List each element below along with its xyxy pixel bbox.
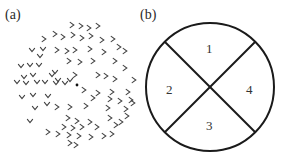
chevron-right-icon [46,129,50,134]
chevron-right-icon [119,119,123,124]
chevron-right-icon [113,76,117,81]
quadrant-label-1: 1 [206,42,213,55]
chevron-right-icon [71,125,75,130]
chevron-down-icon [53,81,58,84]
chevron-right-icon [96,90,100,95]
chevron-right-icon [95,124,99,129]
chevron-right-icon [117,44,121,49]
chevron-right-icon [82,87,86,92]
quadrant-label-4: 4 [246,83,253,96]
chevron-down-icon [55,78,60,81]
chevron-right-icon [75,118,79,123]
chevron-right-icon [84,103,88,108]
chevron-right-icon [89,33,93,38]
chevron-down-icon [30,73,35,76]
chevron-down-icon [30,93,35,96]
chevron-right-icon [55,47,59,52]
chevron-right-icon [61,34,65,39]
chevron-right-icon [78,59,82,64]
chevron-right-icon [102,49,106,54]
chevron-right-icon [55,104,59,109]
chevron-right-icon [68,140,72,145]
chevron-right-icon [77,133,81,138]
chevron-right-icon [87,25,91,30]
chevron-right-icon [104,73,108,78]
chevron-right-icon [79,23,83,28]
chevron-right-icon [65,48,69,53]
chevron-right-icon [96,72,100,77]
chevron-right-icon [56,131,60,136]
quadrant-label-2: 2 [166,83,173,96]
chevron-right-icon [91,58,95,63]
chevron-right-icon [110,89,114,94]
chevron-down-icon [37,54,42,57]
chevron-right-icon [114,122,118,127]
chevron-right-icon [91,95,95,100]
chevron-right-icon [110,131,114,136]
chevron-right-icon [73,47,77,52]
chevron-right-icon [71,32,75,37]
chevron-right-icon [74,142,78,147]
chevron-right-icon [131,100,135,105]
chevron-right-icon [68,104,72,109]
chevron-right-icon [126,89,130,94]
chevron-right-icon [80,124,84,129]
chevron-down-icon [34,80,39,83]
chevron-right-icon [124,106,128,111]
chevron-right-icon [108,115,112,120]
chevron-right-icon [111,36,115,41]
chevron-right-icon [96,23,100,28]
chevron-right-icon [106,105,110,110]
chevron-right-icon [102,133,106,138]
chevron-right-icon [125,113,129,118]
chevron-right-icon [62,124,66,129]
chevron-right-icon [67,132,71,137]
figure-canvas [0,0,286,158]
chevron-right-icon [67,58,71,63]
chevron-right-icon [89,134,93,139]
quadrant-label-3: 3 [206,119,213,132]
chevron-down-icon [23,81,28,84]
chevron-right-icon [70,22,74,27]
chevron-down-icon [45,94,50,97]
chevron-down-icon [49,73,54,76]
chevron-down-icon [27,119,32,122]
chevron-right-icon [88,46,92,51]
chevron-right-icon [66,115,70,120]
chevron-down-icon [27,63,32,66]
chevron-right-icon [100,37,104,42]
chevron-down-icon [29,48,34,51]
chevron-right-icon [123,48,127,53]
chevron-right-icon [80,35,84,40]
chevron-right-icon [108,96,112,101]
chevron-down-icon [44,102,49,105]
chevron-field [14,22,135,147]
chevron-right-icon [42,36,46,41]
chevron-down-icon [14,80,19,83]
chevron-right-icon [53,31,57,36]
chevron-right-icon [118,98,122,103]
chevron-right-icon [132,77,136,82]
center-dot [76,84,79,87]
chevron-right-icon [88,119,92,124]
chevron-down-icon [62,81,67,84]
chevron-right-icon [73,72,77,77]
chevron-down-icon [40,47,45,50]
chevron-down-icon [36,63,41,66]
chevron-down-icon [32,106,37,109]
chevron-right-icon [113,58,117,63]
chevron-right-icon [123,65,127,70]
chevron-down-icon [21,75,26,78]
chevron-down-icon [18,64,23,67]
chevron-down-icon [42,80,47,83]
chevron-down-icon [67,78,72,81]
chevron-down-icon [19,95,24,98]
